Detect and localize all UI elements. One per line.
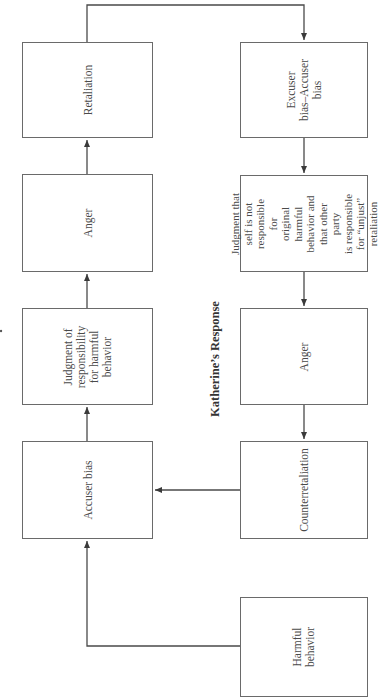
box-label: Anger [81, 209, 94, 238]
box-anger-left: Anger [22, 174, 153, 272]
box-label: Counterretaliation [298, 448, 311, 532]
box-excuser-accuser-bias: Excuser bias–Accuser bias [240, 42, 368, 138]
title-katherines-response: Katherine’s Response [208, 301, 223, 417]
clipped-title-fragment [0, 330, 2, 332]
box-label: Anger [298, 342, 311, 371]
box-label: Harmful behavior [291, 627, 317, 667]
box-label: Retaliation [81, 65, 94, 115]
box-label: Judgment that self is not responsible fo… [229, 192, 379, 255]
arrow-harmful-to-accuser [87, 541, 240, 646]
box-anger-right: Anger [240, 308, 368, 405]
box-label: Excuser bias–Accuser bias [285, 59, 324, 121]
box-accuser-bias: Accuser bias [22, 441, 153, 539]
box-judgment-responsibility: Judgment of responsibility for harmful b… [22, 308, 153, 405]
box-counterretaliation: Counterretaliation [240, 441, 368, 539]
arrow-retaliation-to-excuser [87, 5, 304, 42]
box-label: Accuser bias [81, 460, 94, 519]
box-retaliation: Retaliation [22, 42, 153, 138]
box-harmful-behavior: Harmful behavior [240, 597, 368, 697]
box-label: Judgment of responsibility for harmful b… [62, 325, 114, 388]
box-judgment-self: Judgment that self is not responsible fo… [240, 175, 368, 272]
